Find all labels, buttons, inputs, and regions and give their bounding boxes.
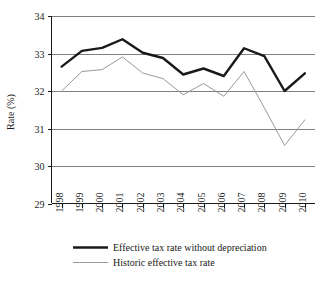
y-tick-label: 29 (35, 199, 45, 210)
x-tick-label: 1998 (54, 193, 65, 213)
x-tick-label: 2003 (155, 193, 166, 213)
x-tick-label: 2002 (135, 193, 146, 213)
gridlines-group (52, 17, 316, 167)
x-tick-label: 2006 (216, 193, 227, 213)
series-line-2 (62, 57, 305, 145)
series-line-1 (62, 39, 305, 91)
legend-label-1: Effective tax rate without depreciation (113, 242, 267, 253)
y-tick-label: 32 (35, 86, 45, 97)
line-chart-canvas: 293031323334 199819992000200120022003200… (0, 0, 326, 284)
x-tick-label: 2009 (277, 193, 288, 213)
x-tick-label: 2000 (94, 193, 105, 213)
y-tick-label: 31 (35, 124, 45, 135)
x-tick-label: 2007 (236, 193, 247, 213)
legend: Effective tax rate without depreciationH… (73, 242, 267, 268)
x-tick-label: 2008 (256, 193, 267, 213)
x-tick-label: 2010 (297, 193, 308, 213)
x-tick-label: 2005 (196, 193, 207, 213)
y-tick-labels-group: 293031323334 (35, 11, 45, 210)
x-tick-label: 2004 (175, 193, 186, 213)
x-tick-label: 1999 (74, 193, 85, 213)
y-tickmarks-group (48, 17, 52, 205)
y-tick-label: 30 (35, 161, 45, 172)
x-tick-label: 2001 (114, 193, 125, 213)
y-tick-label: 34 (35, 11, 45, 22)
legend-label-2: Historic effective tax rate (113, 257, 215, 268)
chart-figure: 293031323334 199819992000200120022003200… (0, 0, 326, 284)
y-tick-label: 33 (35, 49, 45, 60)
y-axis-title: Rate (%) (5, 94, 17, 130)
x-tick-labels-group: 1998199920002001200220032004200520062007… (54, 193, 308, 213)
